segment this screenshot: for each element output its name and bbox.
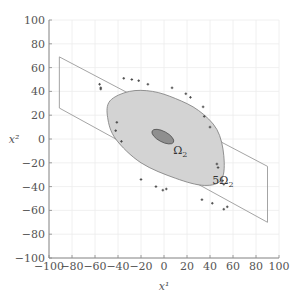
data-point: [122, 77, 125, 80]
y-tick-label: 100: [24, 14, 45, 27]
region-label: 5Ω2: [212, 174, 233, 189]
y-tick-label: 0: [38, 133, 45, 146]
data-point: [140, 178, 143, 181]
y-tick-label: −20: [22, 157, 45, 170]
x-tick-label: −40: [106, 260, 129, 273]
data-point: [171, 87, 174, 90]
y-tick-label: −60: [22, 204, 45, 217]
x-tick-label: 40: [203, 260, 217, 273]
x-tick-label: 60: [226, 260, 240, 273]
x-tick-label: −20: [129, 260, 152, 273]
data-point: [201, 198, 204, 201]
data-point: [211, 202, 214, 205]
y-tick-label: −100: [15, 252, 45, 265]
y-tick-labels: −100−80−60−40−20020406080100: [15, 14, 45, 265]
y-tick-label: 60: [31, 62, 45, 75]
x-axis-label: x¹: [159, 280, 170, 293]
x-tick-labels: −100−80−60−40−20020406080100: [34, 260, 290, 273]
regions: [107, 90, 224, 185]
data-point: [147, 83, 150, 86]
data-point: [155, 185, 158, 188]
y-tick-label: 40: [31, 85, 45, 98]
x-tick-label: 0: [161, 260, 168, 273]
data-point: [137, 79, 140, 82]
data-point: [202, 106, 205, 109]
data-point: [131, 78, 134, 81]
data-point: [189, 96, 192, 99]
data-point: [165, 188, 168, 191]
x-tick-label: 100: [269, 260, 290, 273]
data-point: [98, 83, 101, 86]
x-tick-label: 80: [249, 260, 263, 273]
y-tick-label: 80: [31, 38, 45, 51]
data-point: [226, 206, 229, 209]
x-tick-label: −80: [60, 260, 83, 273]
y-tick-label: −40: [22, 181, 45, 194]
chart: −100−80−60−40−20020406080100 −100−80−60−…: [0, 0, 298, 297]
x-tick-label: −60: [83, 260, 106, 273]
y-tick-label: 20: [31, 109, 45, 122]
y-axis-label: x²: [9, 133, 20, 146]
x-tick-label: 20: [180, 260, 194, 273]
y-tick-label: −80: [22, 228, 45, 241]
